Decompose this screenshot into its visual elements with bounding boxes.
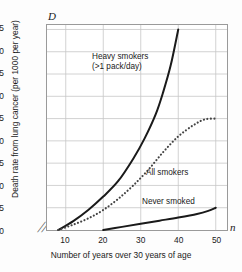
series-label-never-smoked: Never smoked	[142, 197, 195, 207]
x-tick-label: 30	[126, 236, 156, 244]
y-tick-label: 0	[0, 227, 4, 235]
y-tick-label: 5	[0, 204, 4, 212]
y-tick-label: 40	[0, 47, 4, 55]
y-tick-label: 45	[0, 24, 4, 32]
y-tick-label: 25	[0, 114, 4, 122]
y-tick-label: 15	[0, 159, 4, 167]
y-axis-symbol: D	[48, 10, 56, 22]
series-label-all-smokers: All smokers	[146, 168, 188, 178]
x-tick-label: 20	[88, 236, 118, 244]
y-axis-title: Death rate from lung cancer (per 1000 pe…	[10, 2, 20, 216]
series-label-heavy-smokers: Heavy smokers (>1 pack/day)	[92, 52, 148, 73]
series-label-heavy-smokers-line1: Heavy smokers	[92, 52, 148, 62]
y-tick-label: 10	[0, 182, 4, 190]
y-tick-label: 35	[0, 69, 4, 77]
x-axis-title: Number of years over 30 years of age	[0, 250, 242, 260]
lung-cancer-death-rate-chart: D n Death rate from lung cancer (per 100…	[0, 0, 242, 272]
axis-break-icon: ╱╱	[38, 222, 46, 232]
y-tick-label: 30	[0, 92, 4, 100]
x-tick-label: 40	[164, 236, 194, 244]
y-tick-label: 20	[0, 137, 4, 145]
series-label-heavy-smokers-line2: (>1 pack/day)	[92, 62, 148, 72]
x-tick-label: 50	[202, 236, 232, 244]
x-axis-symbol: n	[230, 221, 236, 233]
x-tick-label: 10	[50, 236, 80, 244]
